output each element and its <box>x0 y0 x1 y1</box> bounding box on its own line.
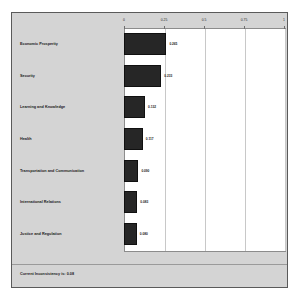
footer: Current Inconsistency is: 0.08 <box>12 264 287 287</box>
inconsistency-text: Current Inconsistency is: 0.08 <box>20 272 74 277</box>
bar-value-label: 0.265 <box>169 42 177 46</box>
category-label: Learning and Knowledge <box>20 105 122 110</box>
gridline <box>205 29 206 251</box>
chart-panel: 00.250.50.751 Economic Prosperity0.265Se… <box>11 12 288 288</box>
bar <box>124 65 161 87</box>
bar-value-label: 0.117 <box>146 137 154 141</box>
x-axis-tick-label: 0 <box>123 18 125 22</box>
bar <box>124 128 143 150</box>
gridline <box>165 29 166 251</box>
x-axis-tick <box>284 26 285 29</box>
x-axis-tick-label: 1 <box>283 18 285 22</box>
x-axis-tick-label: 0.5 <box>202 18 207 22</box>
bar <box>124 33 166 55</box>
category-label: International Relations <box>20 200 122 205</box>
bar <box>124 191 137 213</box>
bar <box>124 96 145 118</box>
x-axis-tick <box>124 26 125 29</box>
gridline <box>245 29 246 251</box>
x-axis-tick <box>204 26 205 29</box>
category-label: Justice and Regulation <box>20 232 122 237</box>
bar-value-label: 0.080 <box>140 232 148 236</box>
bar-value-label: 0.132 <box>148 105 156 109</box>
x-axis-tick <box>244 26 245 29</box>
x-axis-tick-label: 0.75 <box>241 18 248 22</box>
x-axis-tick-label: 0.25 <box>161 18 168 22</box>
category-label: Transportation and Communication <box>20 168 122 173</box>
gridline <box>285 29 286 251</box>
bar-value-label: 0.090 <box>141 169 149 173</box>
bar <box>124 223 137 245</box>
x-axis-tick <box>164 26 165 29</box>
category-label: Health <box>20 137 122 142</box>
priority-bar-chart: 00.250.50.751 Economic Prosperity0.265Se… <box>12 13 287 287</box>
bar-value-label: 0.233 <box>164 74 172 78</box>
bar-value-label: 0.083 <box>140 200 148 204</box>
category-label: Security <box>20 73 122 78</box>
bar <box>124 160 138 182</box>
category-label: Economic Prosperity <box>20 41 122 46</box>
